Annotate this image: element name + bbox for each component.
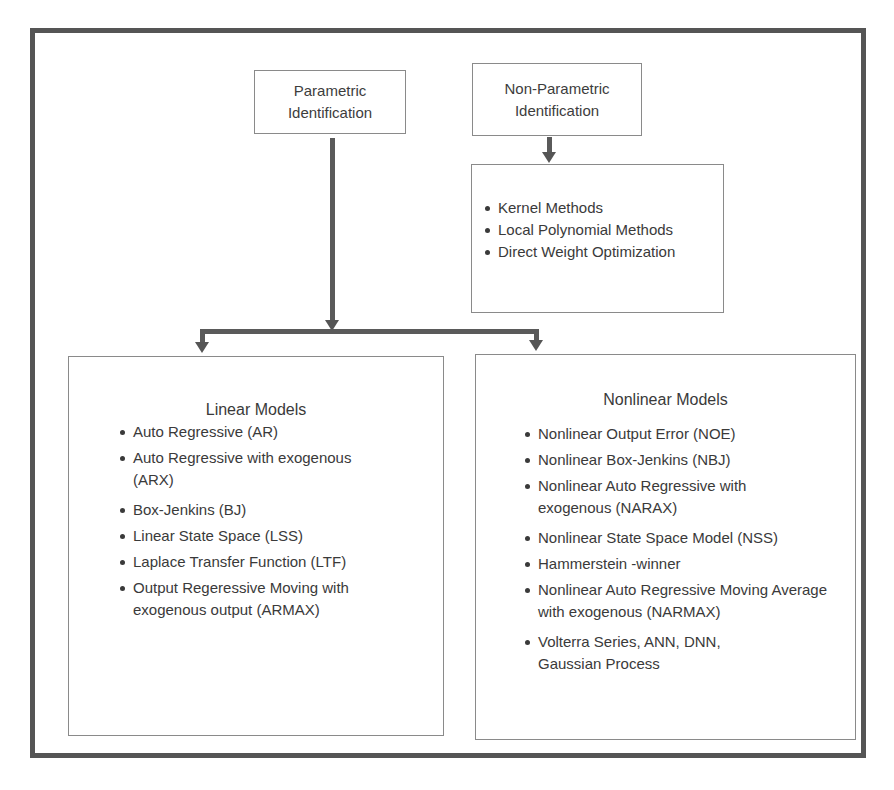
list-item: Nonlinear State Space Model (NSS) xyxy=(522,527,835,549)
nonlinear-models-list: Nonlinear Output Error (NOE) Nonlinear B… xyxy=(522,423,835,675)
list-item: Output Regeressive Moving with exogenous… xyxy=(117,577,398,621)
arrowhead-nonparam-methods-icon xyxy=(542,152,556,163)
non-parametric-methods-box: Kernel Methods Local Polynomial Methods … xyxy=(471,164,724,313)
list-item: Auto Regressive with exogenous (ARX) xyxy=(117,447,383,491)
parametric-label-line1: Parametric xyxy=(288,80,372,102)
list-item: Local Polynomial Methods xyxy=(482,219,723,241)
linear-models-title: Linear Models xyxy=(89,401,423,419)
non-parametric-identification-node: Non-Parametric Identification xyxy=(472,63,642,136)
non-parametric-methods-list: Kernel Methods Local Polynomial Methods … xyxy=(482,197,723,263)
list-item: Auto Regressive (AR) xyxy=(117,421,423,443)
linear-models-box: Linear Models Auto Regressive (AR) Auto … xyxy=(68,356,444,736)
arrowhead-linear-icon xyxy=(195,342,209,353)
connector-left-drop xyxy=(200,329,205,343)
list-item: Direct Weight Optimization xyxy=(482,241,723,263)
list-item: Nonlinear Output Error (NOE) xyxy=(522,423,835,445)
connector-parametric-vertical xyxy=(330,138,335,324)
connector-horizontal-split xyxy=(200,329,539,334)
nonlinear-models-box: Nonlinear Models Nonlinear Output Error … xyxy=(475,354,856,740)
list-item: Kernel Methods xyxy=(482,197,723,219)
list-item: Laplace Transfer Function (LTF) xyxy=(117,551,423,573)
parametric-label-line2: Identification xyxy=(288,102,372,124)
linear-models-list: Auto Regressive (AR) Auto Regressive wit… xyxy=(117,421,423,621)
nonlinear-models-title: Nonlinear Models xyxy=(496,391,835,409)
list-item: Volterra Series, ANN, DNN, Gaussian Proc… xyxy=(522,631,753,675)
parametric-identification-node: Parametric Identification xyxy=(254,70,406,134)
list-item: Box-Jenkins (BJ) xyxy=(117,499,423,521)
non-parametric-label-line2: Identification xyxy=(504,100,609,122)
list-item: Hammerstein -winner xyxy=(522,553,835,575)
non-parametric-label-line1: Non-Parametric xyxy=(504,78,609,100)
list-item: Nonlinear Box-Jenkins (NBJ) xyxy=(522,449,835,471)
list-item: Linear State Space (LSS) xyxy=(117,525,423,547)
list-item: Nonlinear Auto Regressive with exogenous… xyxy=(522,475,783,519)
list-item: Nonlinear Auto Regressive Moving Average… xyxy=(522,579,828,623)
arrowhead-nonlinear-icon xyxy=(529,340,543,351)
